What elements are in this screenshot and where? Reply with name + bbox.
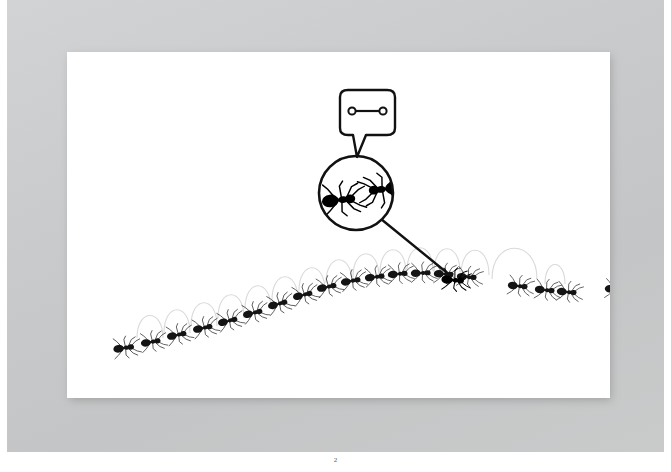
illustration-viewer: 2 — [0, 0, 671, 472]
trail-ant — [387, 262, 415, 285]
trail-ant — [410, 261, 437, 283]
trail-ant — [265, 289, 296, 316]
trail-ant — [556, 280, 584, 303]
ant-trail-row — [112, 261, 610, 359]
trail-arcs — [137, 248, 565, 338]
document-page — [67, 52, 610, 398]
trail-ant — [604, 277, 610, 299]
speech-bubble — [340, 90, 395, 157]
magnifier-lens — [319, 156, 404, 230]
trail-ant — [315, 273, 345, 299]
trail-ant — [165, 321, 195, 347]
trail-ant — [112, 334, 142, 360]
ant-trail-illustration — [67, 52, 610, 398]
page-number: 2 — [0, 456, 671, 464]
trail-ant — [215, 306, 246, 333]
trail-ant — [507, 274, 535, 298]
